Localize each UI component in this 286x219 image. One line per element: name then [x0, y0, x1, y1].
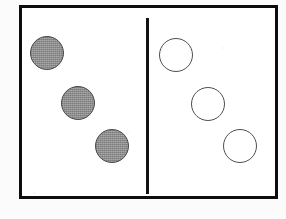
shaded-circle-3 [95, 129, 129, 163]
diagram-canvas [0, 0, 286, 219]
hollow-circle-1 [159, 38, 193, 72]
hollow-circle-2 [191, 87, 225, 121]
shaded-circle-2 [61, 86, 95, 120]
shaded-circle-1 [30, 36, 64, 70]
hollow-circle-3 [223, 129, 257, 163]
vertical-divider-line [146, 18, 149, 194]
